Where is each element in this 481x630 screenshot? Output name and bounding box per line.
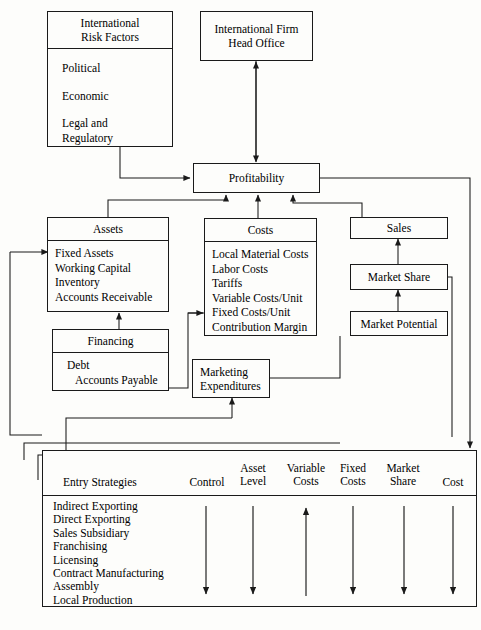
assets-title: Assets [48, 218, 168, 241]
box-financing: Financing Debt Accounts Payable [52, 329, 169, 391]
risk-item: Economic [62, 89, 172, 104]
box-assets: Assets Fixed Assets Working Capital Inve… [47, 217, 169, 312]
diagram-canvas: International Risk Factors Political Eco… [0, 0, 481, 630]
costs-item: Variable Costs/Unit [212, 291, 316, 306]
box-market-potential: Market Potential [350, 311, 448, 336]
box-sales: Sales [350, 217, 448, 239]
risk-item: Political [62, 61, 172, 76]
box-market-share: Market Share [350, 264, 448, 290]
table-col-asset-level: Asset Level [223, 462, 283, 488]
costs-items: Local Material Costs Labor Costs Tariffs… [205, 242, 316, 340]
box-international-firm-head-office: International Firm Head Office [200, 11, 313, 61]
marketing-expenditures-label: Marketing Expenditures [193, 360, 269, 397]
table-direction-arrows [43, 496, 478, 606]
table-header-row: Entry Strategies Control Asset Level Var… [43, 451, 476, 496]
risk-item: Legal and Regulatory [62, 116, 172, 145]
financing-item: Accounts Payable [75, 373, 168, 388]
profitability-label: Profitability [194, 164, 319, 192]
box-international-risk-factors: International Risk Factors Political Eco… [47, 11, 173, 147]
costs-item: Local Material Costs [212, 247, 316, 262]
risk-factors-items: Political Economic Legal and Regulatory [48, 49, 172, 150]
financing-title: Financing [53, 330, 168, 353]
market-potential-label: Market Potential [351, 312, 447, 335]
entry-strategies-table: Entry Strategies Control Asset Level Var… [42, 450, 477, 607]
costs-item: Contribution Margin [212, 320, 316, 335]
assets-item: Fixed Assets [55, 246, 168, 261]
assets-item: Working Capital [55, 261, 168, 276]
assets-item: Inventory [55, 275, 168, 290]
table-col-market-share: Market Share [373, 462, 433, 488]
box-profitability: Profitability [193, 163, 320, 193]
sales-label: Sales [351, 218, 447, 238]
table-col-cost: Cost [426, 476, 480, 489]
costs-title: Costs [205, 219, 316, 242]
box-marketing-expenditures: Marketing Expenditures [192, 359, 270, 398]
market-share-label: Market Share [351, 265, 447, 289]
costs-item: Tariffs [212, 276, 316, 291]
financing-items: Debt Accounts Payable [53, 353, 168, 392]
box-costs: Costs Local Material Costs Labor Costs T… [204, 218, 317, 336]
head-office-label: International Firm Head Office [201, 12, 312, 60]
risk-factors-title: International Risk Factors [48, 12, 172, 49]
table-body: Indirect Exporting Direct Exporting Sale… [43, 496, 476, 606]
assets-item: Accounts Receivable [55, 290, 168, 305]
costs-item: Fixed Costs/Unit [212, 305, 316, 320]
assets-items: Fixed Assets Working Capital Inventory A… [48, 241, 168, 309]
costs-item: Labor Costs [212, 262, 316, 277]
financing-item: Debt [67, 358, 168, 373]
